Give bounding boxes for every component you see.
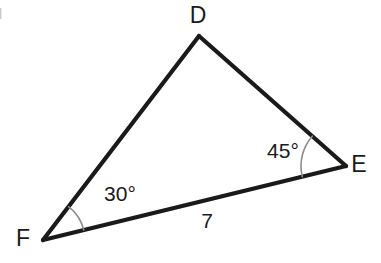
vertex-label-F: F: [16, 225, 30, 251]
angle-label-F: 30°: [104, 182, 136, 205]
triangle-figure: D E F 30° 45° 7: [0, 0, 381, 263]
vertex-label-D: D: [190, 2, 207, 28]
side-FE: [43, 166, 346, 240]
side-length-label-FE: 7: [201, 209, 213, 232]
vertex-label-E: E: [351, 151, 366, 177]
diagram-canvas: D E F 30° 45° 7: [0, 0, 381, 263]
angle-label-E: 45°: [267, 139, 299, 162]
angle-arc-E: [301, 136, 312, 176]
angle-arc-F: [69, 207, 84, 230]
